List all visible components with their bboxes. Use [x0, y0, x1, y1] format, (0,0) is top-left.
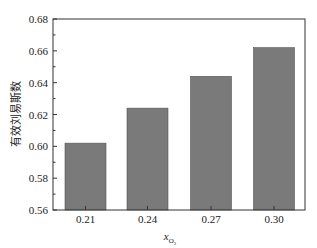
x-tick-label: 0.21 — [76, 213, 95, 225]
bar-0.30 — [254, 48, 295, 210]
y-tick-label: 0.68 — [29, 13, 49, 25]
bar-0.21 — [65, 143, 106, 210]
y-tick-label: 0.56 — [29, 204, 49, 216]
x-axis: 0.210.240.270.30 — [76, 206, 284, 225]
y-tick-label: 0.58 — [29, 172, 49, 184]
y-tick-label: 0.60 — [29, 140, 49, 152]
x-tick-label: 0.27 — [201, 213, 221, 225]
y-axis-label: 有效刘易斯数 — [9, 81, 23, 147]
bar-0.27 — [191, 76, 232, 210]
x-tick-label: 0.24 — [138, 213, 158, 225]
y-tick-label: 0.66 — [29, 45, 49, 57]
y-tick-label: 0.62 — [29, 109, 48, 121]
x-axis-label: xO2 — [163, 230, 177, 246]
y-tick-label: 0.64 — [29, 77, 49, 89]
bar-0.24 — [127, 108, 168, 210]
bars — [65, 48, 295, 210]
x-tick-label: 0.30 — [264, 213, 284, 225]
bar-chart: 0.560.580.600.620.640.660.68 0.210.240.2… — [0, 0, 317, 248]
